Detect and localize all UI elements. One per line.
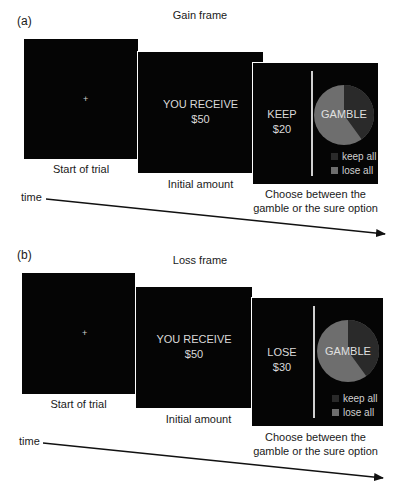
keep-all-swatch: [332, 395, 339, 402]
initial-caption: Initial amount: [136, 412, 261, 426]
frame-title: Loss frame: [140, 254, 260, 266]
legend-label: lose all: [342, 165, 373, 176]
legend-label: keep all: [343, 393, 377, 404]
choice-screen: LOSE $30 GAMBLE keep all lose all: [252, 298, 383, 426]
choice-caption: Choose between the gamble or the sure op…: [243, 187, 388, 215]
legend-keep-all: keep all: [332, 393, 377, 404]
panel-label: (a): [17, 14, 32, 28]
start-caption: Start of trial: [22, 397, 135, 411]
sure-option-label: KEEP: [253, 107, 311, 122]
legend-label: keep all: [342, 151, 376, 162]
start-of-trial-screen: +: [22, 273, 135, 394]
sure-option-amount: $30: [252, 360, 312, 375]
legend-label: lose all: [343, 407, 374, 418]
choice-caption-line1: Choose between the: [243, 430, 388, 444]
choice-caption: Choose between the gamble or the sure op…: [243, 430, 388, 458]
panel-label: (b): [17, 248, 32, 262]
start-of-trial-screen: +: [24, 39, 138, 159]
lose-all-swatch: [332, 409, 339, 416]
sure-option-label: LOSE: [252, 345, 312, 360]
time-label: time: [21, 191, 42, 203]
fixation-cross: +: [83, 94, 88, 104]
choice-caption-line2: gamble or the sure option: [243, 444, 388, 458]
legend-keep-all: keep all: [331, 151, 376, 162]
time-label: time: [19, 435, 40, 447]
initial-amount-screen: YOU RECEIVE $50: [136, 287, 252, 408]
start-caption: Start of trial: [24, 162, 138, 176]
receive-label: YOU RECEIVE: [136, 332, 252, 347]
legend-lose-all: lose all: [331, 165, 373, 176]
sure-option-amount: $20: [253, 122, 311, 137]
gamble-label: GAMBLE: [316, 344, 380, 359]
lose-all-swatch: [331, 167, 338, 174]
legend-lose-all: lose all: [332, 407, 374, 418]
frame-title: Gain frame: [140, 9, 260, 21]
receive-amount: $50: [138, 112, 263, 127]
gamble-label: GAMBLE: [313, 107, 375, 122]
receive-label: YOU RECEIVE: [138, 97, 263, 112]
keep-all-swatch: [331, 153, 338, 160]
receive-amount: $50: [136, 347, 252, 362]
choice-caption-line2: gamble or the sure option: [243, 201, 388, 215]
initial-amount-screen: YOU RECEIVE $50: [138, 52, 263, 173]
fixation-cross: +: [82, 328, 87, 338]
choice-screen: KEEP $20 GAMBLE keep all lose all: [253, 63, 378, 184]
choice-caption-line1: Choose between the: [243, 187, 388, 201]
